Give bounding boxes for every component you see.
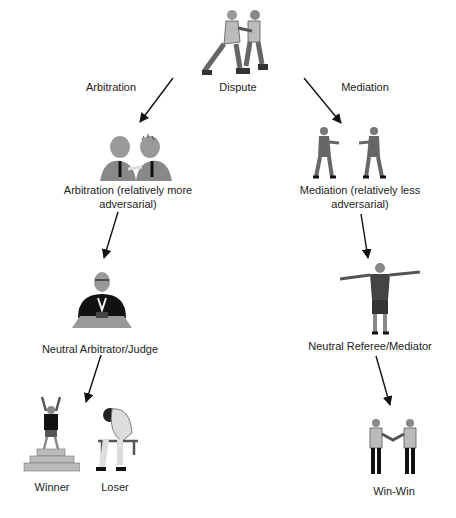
judge-at-desk-icon	[72, 268, 132, 330]
arrow-arbitration-to-judge	[104, 212, 118, 258]
arguing-men-icon	[98, 133, 174, 181]
judge-label: Neutral Arbitrator/Judge	[34, 342, 166, 356]
winner-on-podium-icon	[22, 393, 80, 473]
dispute-label: Dispute	[208, 80, 268, 94]
arbitration-stage-label: Arbitration (relatively more adversarial…	[58, 183, 198, 211]
win-win-label: Win-Win	[366, 484, 422, 498]
dejected-loser-icon	[92, 403, 142, 475]
referee-arms-out-icon	[340, 262, 420, 336]
mediation-stage-label: Mediation (relatively less adversarial)	[292, 183, 428, 211]
arbitration-edge-label: Arbitration	[76, 80, 146, 94]
boxers-fighting-icon	[200, 8, 280, 80]
arrow-mediation-to-referee	[361, 214, 368, 258]
men-confronting-icon	[310, 125, 390, 181]
loser-label: Loser	[90, 480, 140, 494]
arrow-referee-to-winwin	[376, 356, 390, 405]
winner-label: Winner	[24, 480, 80, 494]
mediation-edge-label: Mediation	[330, 80, 400, 94]
arrow-judge-to-outcomes	[86, 355, 101, 402]
referee-label: Neutral Referee/Mediator	[300, 339, 440, 353]
handshake-icon	[364, 418, 422, 478]
